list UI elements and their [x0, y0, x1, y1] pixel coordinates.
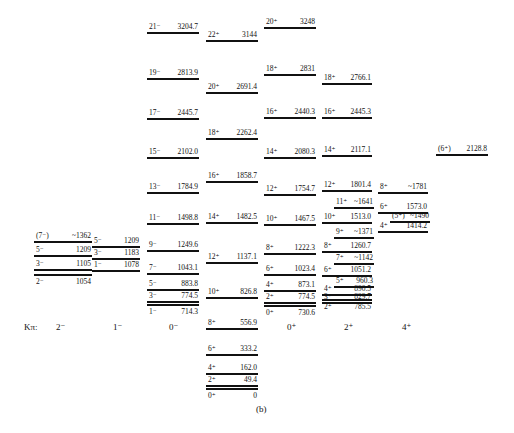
spin-label: 8⁺: [266, 244, 274, 252]
level-K0plus-4: 4⁺873.1: [264, 280, 316, 292]
level-K0minus-21: 21⁻3204.7: [147, 22, 199, 34]
energy-label: 333.2: [240, 345, 257, 353]
level-K2minus-5: 5⁻1209: [34, 245, 92, 257]
level-line: [322, 83, 372, 85]
energy-label: 1754.7: [294, 185, 315, 193]
energy-label: 2766.1: [350, 74, 371, 82]
level-K0minus-13: 13⁻1784.9: [147, 182, 199, 194]
level-line: [147, 192, 199, 194]
energy-label: 2080.3: [294, 148, 315, 156]
level-line: [147, 32, 199, 34]
spin-label: 2⁺: [208, 376, 216, 384]
level-line: [334, 207, 374, 209]
level-line: [378, 192, 428, 194]
level-K2plus-9: 9⁺~1371: [334, 227, 374, 239]
level-ground-0: 0⁺0: [206, 388, 258, 390]
level-K2plus-18: 18⁺2766.1: [322, 73, 372, 85]
energy-label: 1222.3: [294, 244, 315, 252]
level-line: [322, 299, 372, 301]
energy-label: 774.5: [181, 292, 198, 300]
spin-label: 14⁺: [324, 146, 335, 154]
level-K2minus-2: 2⁻1054: [34, 274, 92, 276]
level-ground-12: 12⁺1137.1: [206, 252, 258, 264]
k-band-label-0plus: 0⁺: [287, 322, 296, 332]
level-line: [264, 302, 316, 304]
energy-label: 162.0: [240, 364, 257, 372]
level-line: [206, 385, 258, 387]
spin-label: 18⁺: [324, 74, 335, 82]
level-K2plus-7: 7⁺~1142: [334, 253, 374, 265]
level-line: [334, 237, 374, 239]
level-line: [34, 269, 92, 271]
spin-label: 6⁺: [208, 345, 216, 353]
spin-label: 16⁺: [266, 108, 277, 116]
level-K2plus-2: 2⁺785.5: [322, 299, 372, 301]
level-K2plus-10: 10⁺1513.0: [322, 212, 372, 224]
level-line: [147, 301, 199, 303]
spin-label: 16⁺: [208, 172, 219, 180]
spin-label: 22⁺: [208, 31, 219, 39]
level-K0plus-10: 10⁺1467.5: [264, 214, 316, 226]
level-line: [264, 27, 316, 29]
spin-label: 14⁺: [208, 213, 219, 221]
level-K1minus-3: 3⁻1183: [92, 248, 140, 260]
level-K0minus-15: 15⁻2102.0: [147, 147, 199, 159]
spin-label: 12⁺: [208, 253, 219, 261]
level-K2minus-3: 3⁻1105: [34, 259, 92, 271]
level-ground-8: 8⁺556.9: [206, 318, 258, 330]
level-line: [378, 231, 428, 233]
level-line: [264, 194, 316, 196]
spin-label: 9⁻: [149, 241, 157, 249]
level-K0minus-17: 17⁻2445.7: [147, 108, 199, 120]
energy-label: 1573.0: [406, 203, 427, 211]
energy-label: 1105: [76, 260, 91, 268]
level-line: [206, 181, 258, 183]
energy-label: 49.4: [244, 376, 257, 384]
spin-label: 7⁺: [336, 254, 344, 262]
energy-label: 774.5: [298, 293, 315, 301]
level-ground-22: 22⁺3144: [206, 30, 258, 42]
energy-label: 714.3: [181, 308, 198, 316]
spin-label: 5⁻: [36, 246, 44, 254]
energy-label: 2445.3: [350, 108, 371, 116]
level-K0minus-1: 1⁻714.3: [147, 304, 199, 306]
level-line: [322, 190, 372, 192]
energy-label: 1043.1: [177, 264, 198, 272]
level-ground-20: 20⁺2691.4: [206, 82, 258, 94]
level-K0plus-20: 20⁺3248: [264, 17, 316, 29]
level-line: [206, 354, 258, 356]
spin-label: 11⁺: [336, 198, 347, 206]
level-ground-4: 4⁺162.0: [206, 363, 258, 375]
nuclear-level-scheme: (7⁻)~1362 5⁻1209 3⁻1105 2⁻1054 5⁻1209 3⁻…: [0, 0, 514, 433]
spin-label: 5⁻: [94, 237, 102, 245]
spin-label: 9⁺: [336, 228, 344, 236]
spin-label: 12⁺: [324, 181, 335, 189]
energy-label: 1858.7: [236, 172, 257, 180]
level-K0plus-18: 18⁺2831: [264, 64, 316, 76]
level-line: [264, 157, 316, 159]
spin-label: 2⁻: [36, 278, 44, 286]
spin-label: 8⁺: [380, 183, 388, 191]
level-ground-6: 6⁺333.2: [206, 344, 258, 356]
level-line: [264, 224, 316, 226]
level-K1minus-5: 5⁻1209: [92, 236, 140, 248]
level-line: [322, 155, 372, 157]
energy-label: 556.9: [240, 319, 257, 327]
level-line: [206, 297, 258, 299]
level-K2minus-7: (7⁻)~1362: [34, 231, 92, 243]
spin-label: 19⁻: [149, 69, 160, 77]
energy-label: ~1362: [72, 232, 91, 240]
level-line: [206, 138, 258, 140]
k-band-label-4plus: 4⁺: [402, 322, 411, 332]
energy-label: 826.8: [240, 288, 257, 296]
level-line: [147, 273, 199, 275]
energy-label: 3204.7: [177, 23, 198, 31]
level-K1minus-1: 1⁻1078: [92, 260, 140, 272]
energy-label: 883.8: [181, 280, 198, 288]
spin-label: (7⁻): [36, 232, 49, 240]
spin-label: 7⁻: [149, 264, 157, 272]
spin-label: 2⁺: [266, 293, 274, 301]
level-line: [92, 270, 140, 272]
spin-label: 10⁺: [208, 288, 219, 296]
spin-label: 6⁺: [266, 265, 274, 273]
